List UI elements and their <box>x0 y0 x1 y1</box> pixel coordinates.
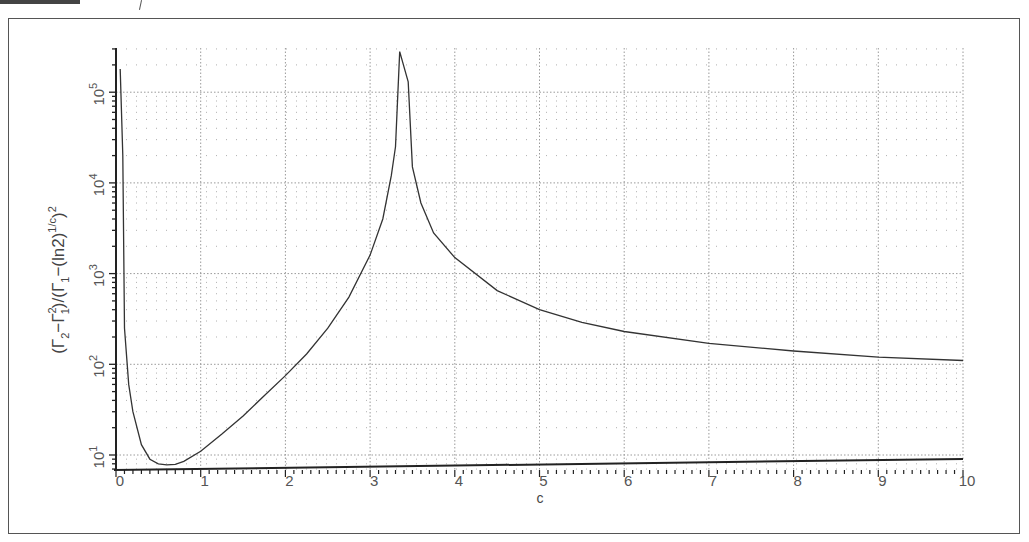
y-tick-label: 102 <box>87 355 107 378</box>
grid-lines <box>116 48 963 470</box>
y-axis-label: (Γ2−Γ21)/(Γ1−(ln2)1/c)2 <box>46 206 71 354</box>
x-tick-label: 5 <box>539 472 547 489</box>
svg-text:104: 104 <box>87 173 107 196</box>
y-tick-label: 103 <box>87 264 107 287</box>
y-tick-labels: 101102103104105 <box>87 83 107 469</box>
x-tick-labels: 012345678910 <box>116 472 976 489</box>
x-axis-label: c <box>537 490 544 506</box>
svg-text:102: 102 <box>87 355 107 378</box>
x-tick-label: 4 <box>455 472 463 489</box>
x-tick-label: 0 <box>116 472 124 489</box>
y-tick-label: 104 <box>87 173 107 196</box>
axes <box>114 48 963 470</box>
x-tick-label: 3 <box>370 472 378 489</box>
x-tick-label: 10 <box>959 472 976 489</box>
x-tick-label: 8 <box>793 472 801 489</box>
svg-text:101: 101 <box>87 446 107 469</box>
svg-text:(Γ2−Γ21)/(Γ1−(ln2)1/c)2: (Γ2−Γ21)/(Γ1−(ln2)1/c)2 <box>46 206 71 354</box>
x-tick-label: 6 <box>624 472 632 489</box>
log-line-chart: 012345678910 101102103104105 c (Γ2−Γ21)/… <box>0 0 1029 542</box>
x-tick-label: 2 <box>285 472 293 489</box>
y-tick-label: 105 <box>87 83 107 106</box>
x-tick-label: 9 <box>878 472 886 489</box>
x-tick-label: 7 <box>709 472 717 489</box>
svg-text:103: 103 <box>87 264 107 287</box>
svg-text:105: 105 <box>87 83 107 106</box>
data-curve <box>120 52 963 465</box>
tick-marks <box>109 49 963 477</box>
y-tick-label: 101 <box>87 446 107 469</box>
x-tick-label: 1 <box>201 472 209 489</box>
